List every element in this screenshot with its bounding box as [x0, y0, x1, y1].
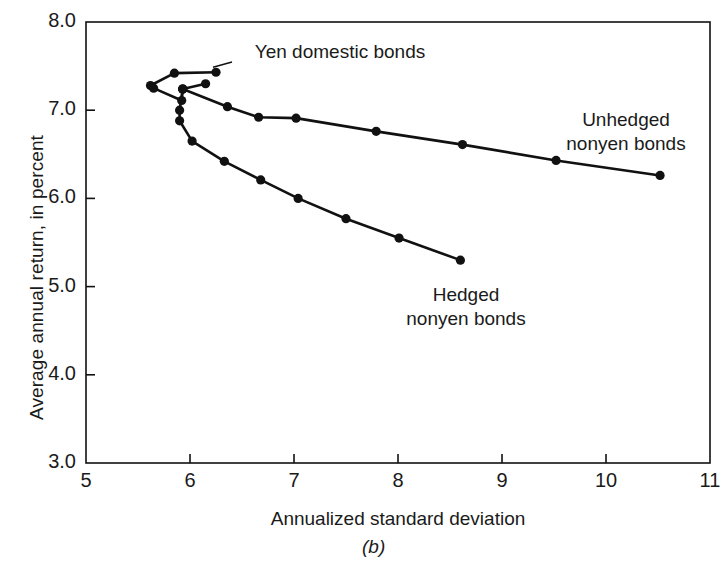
data-point — [211, 68, 220, 77]
data-point — [291, 114, 300, 123]
data-point — [220, 157, 229, 166]
data-point — [372, 127, 381, 136]
annotation-unhedged-line2: nonyen bonds — [528, 132, 724, 156]
annotation-unhedged-line1: Unhedged — [528, 108, 724, 132]
x-tick-label: 9 — [482, 469, 522, 492]
y-tick-label: 8.0 — [14, 9, 76, 32]
data-point — [187, 136, 196, 145]
data-point — [149, 84, 158, 93]
data-point — [178, 84, 187, 93]
annotation-hedged-line2: nonyen bonds — [368, 307, 564, 331]
data-point — [175, 106, 184, 115]
series-line-2 — [180, 89, 461, 260]
data-point — [551, 156, 560, 165]
y-tick-label: 5.0 — [14, 274, 76, 297]
data-point — [655, 171, 664, 180]
x-tick-label: 8 — [378, 469, 418, 492]
figure-container: Average annual return, in percent Annual… — [0, 0, 725, 566]
data-point — [394, 233, 403, 242]
x-tick-label: 11 — [690, 469, 725, 492]
x-tick-label: 6 — [170, 469, 210, 492]
annotation-yen-domestic-line1: Yen domestic bonds — [225, 40, 455, 64]
annotation-yen-domestic: Yen domestic bonds — [225, 40, 455, 64]
data-point — [458, 140, 467, 149]
data-point — [170, 69, 179, 78]
data-point — [223, 102, 232, 111]
annotation-hedged-line1: Hedged — [368, 283, 564, 307]
figure-caption: (b) — [362, 536, 385, 558]
data-point — [254, 113, 263, 122]
x-tick-label: 10 — [586, 469, 626, 492]
data-point — [175, 116, 184, 125]
annotation-unhedged: Unhedged nonyen bonds — [528, 108, 724, 156]
y-tick-label: 3.0 — [14, 450, 76, 473]
data-point — [456, 256, 465, 265]
y-tick-label: 4.0 — [14, 362, 76, 385]
x-axis-label: Annualized standard deviation — [258, 508, 538, 530]
y-tick-label: 7.0 — [14, 97, 76, 120]
x-tick-label: 7 — [274, 469, 314, 492]
data-point — [294, 194, 303, 203]
data-point — [341, 214, 350, 223]
y-tick-label: 6.0 — [14, 185, 76, 208]
data-point — [256, 175, 265, 184]
data-point — [177, 96, 186, 105]
annotation-hedged: Hedged nonyen bonds — [368, 283, 564, 331]
data-point — [201, 79, 210, 88]
